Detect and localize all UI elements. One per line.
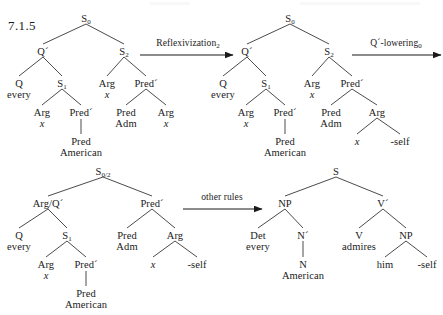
t2-q: Qevery [211,79,235,101]
t1-s0-label: S0 [81,14,90,26]
tree-edge [266,89,285,105]
t1-arg-a-terminal: x [99,90,115,101]
t1-s1: S1 [57,79,66,91]
tree-edge [285,209,303,228]
t2-predbar2: Pred´ [273,108,296,119]
tree-edge [247,24,290,44]
t4-np2-label: NP [399,231,413,242]
t1-s1-subscript: 1 [63,83,67,91]
section-number: 7.1.5 [8,18,36,34]
t1-q: Qevery [7,79,31,101]
tree-edge [48,209,67,228]
t1-q-terminal: every [7,90,31,101]
t2-arg-b: Argx [238,108,254,130]
tree-edge [103,177,152,196]
t3-argq: Arg/Q´ [33,199,64,210]
t4-vbar: V´ [377,199,388,210]
t1-pred-am: PredAmerican [60,137,102,159]
t2-arg-a-terminal: x [304,90,320,101]
t4-det: Detevery [246,231,270,253]
t2-predbar2-label: Pred´ [273,108,296,119]
page-bleed-artifact [300,2,420,5]
t4-np: NP [278,199,292,210]
t3-predbar2: Pred´ [74,260,97,271]
t1-arg-a: Argx [99,79,115,101]
t4-v-terminal: admires [342,242,376,253]
t2-qbar-label: Q´ [241,47,252,58]
t2-pred-adm-terminal: Adm [320,119,341,130]
tree-edge [336,177,383,196]
tree-edge [48,177,103,196]
t3-pred-am: PredAmerican [65,289,107,311]
t3-s02-subscript: 0/2 [102,171,111,179]
t1-predbar: Pred´ [134,79,157,90]
t2-predbar: Pred´ [340,79,363,90]
t2-x-label: x [355,137,360,148]
t2-x: x [355,137,360,148]
t3-pred-adm: PredAdm [116,231,137,253]
tree-edge [43,57,62,76]
t2-arg-a: Argx [304,79,320,101]
tree-edge [107,57,124,76]
t1-pred-adm: PredAdm [115,108,136,130]
t2-s0-subscript: 0 [291,18,295,26]
t1-arg-b-terminal: x [34,119,50,130]
t2-predbar-label: Pred´ [340,79,363,90]
t2-s2-label: S2 [324,47,333,59]
t3-arg-b: Argx [38,260,54,282]
tree-edge [19,57,43,76]
t2-s0: S0 [285,14,294,26]
t3-predbar2-label: Pred´ [74,260,97,271]
t3-pred-adm-terminal: Adm [116,242,137,253]
t4-nbar-label: N´ [297,231,308,242]
t2-s1-subscript: 1 [267,83,271,91]
arrow-other-rules-label: other rules [201,192,242,202]
t1-predbar-label: Pred´ [134,79,157,90]
t1-pred-am-terminal: American [60,148,102,159]
tree-edge [223,57,247,76]
t3-s1-subscript: 1 [68,235,72,243]
t3-s02-label: S0/2 [96,167,111,179]
t3-arg-label: Arg [167,231,183,242]
tree-edge [46,241,67,257]
tree-edge [377,118,400,134]
t2-arg-c-label: Arg [369,108,385,119]
t3-self: -self [187,260,206,271]
t3-x-label: x [151,260,156,271]
t1-s0-subscript: 0 [87,18,91,26]
t3-argq-label: Arg/Q´ [33,199,64,210]
t2-s1-label: S1 [261,79,270,91]
t3-predbar: Pred´ [140,199,163,210]
arrow-q-lowering-label-subscript: 0 [418,42,422,50]
t1-s2-label: S2 [119,47,128,59]
t3-q-terminal: every [7,242,31,253]
t3-x: x [151,260,156,271]
tree-edge [331,89,352,105]
tree-edge [152,209,175,228]
t1-qbar-label: Q´ [37,47,48,58]
tree-edge [385,241,406,257]
t2-arg-c: Arg [369,108,385,119]
t2-pred-am-terminal: American [264,148,306,159]
arrow-reflexivization-label-subscript: 2 [216,42,220,50]
t4-v: Vadmires [342,231,376,253]
t1-predbar2: Pred´ [69,108,92,119]
t3-pred-am-terminal: American [65,300,107,311]
t4-nbar: N´ [297,231,308,242]
t2-self-label: -self [390,137,409,148]
t3-s1: S1 [62,231,71,243]
tree-edge [383,209,406,228]
t1-qbar: Q´ [37,47,48,58]
t4-s: S [333,167,339,178]
tree-edge [126,89,146,105]
t3-s02: S0/2 [96,167,111,179]
t2-pred-adm: PredAdm [320,108,341,130]
t1-arg-c: Argx [158,108,174,130]
tree-edge [67,241,86,257]
tree-edge [43,24,86,44]
tree-edge [42,89,62,105]
t2-pred-am: PredAmerican [264,137,306,159]
t4-him: him [377,260,394,271]
t4-self: -self [417,260,436,271]
t3-predbar-label: Pred´ [140,199,163,210]
